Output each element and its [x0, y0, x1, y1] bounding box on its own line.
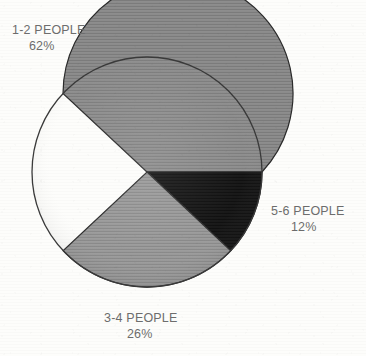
- pie-label-1-2-people-category: 1-2 PEOPLE: [12, 23, 86, 37]
- pie-label-1-2-people: 1-2 PEOPLE 62%: [12, 22, 86, 54]
- pie-label-5-6-people-percent: 12%: [271, 219, 345, 235]
- pie-outline: [32, 57, 262, 287]
- pie-label-5-6-people: 5-6 PEOPLE 12%: [271, 203, 345, 235]
- pie-label-3-4-people: 3-4 PEOPLE 26%: [104, 310, 178, 342]
- pie-label-3-4-people-category: 3-4 PEOPLE: [104, 311, 178, 325]
- pie-label-1-2-people-percent: 62%: [12, 38, 86, 54]
- pie-label-5-6-people-category: 5-6 PEOPLE: [271, 204, 345, 218]
- pie-label-3-4-people-percent: 26%: [104, 326, 178, 342]
- pie-chart: 1-2 PEOPLE 62% 5-6 PEOPLE 12% 3-4 PEOPLE…: [0, 0, 366, 356]
